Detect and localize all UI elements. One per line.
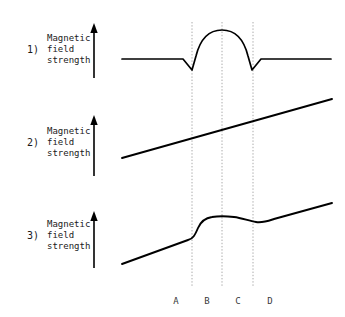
- x-tick-label-c: C: [232, 296, 244, 306]
- up-arrow-icon-3: [90, 211, 97, 268]
- curve-path-1: [122, 30, 331, 70]
- row-axis-label-3-line2: field: [47, 230, 74, 241]
- row-axis-label-1-line2: field: [47, 44, 74, 55]
- magnetic-field-strength-figure: 1) Magnetic field strength 2) Magnetic f…: [0, 0, 345, 317]
- row-index-2: 2): [27, 137, 39, 148]
- row-axis-label-1-line1: Magnetic: [47, 33, 90, 44]
- up-arrow-icon-2: [90, 115, 97, 176]
- guide-lines-group: [192, 22, 253, 286]
- up-arrow-icon-1: [90, 23, 97, 78]
- row-axis-label-2-line1: Magnetic: [47, 126, 90, 137]
- curve-panel-3: [122, 203, 332, 264]
- y-axis-arrows-group: [90, 23, 97, 268]
- row-axis-label-2-line3: strength: [47, 148, 90, 159]
- x-tick-label-d: D: [264, 296, 276, 306]
- curve-path-2: [122, 99, 332, 158]
- row-index-1: 1): [27, 44, 39, 55]
- row-axis-label-3-line1: Magnetic: [47, 219, 90, 230]
- x-tick-label-a: A: [170, 296, 182, 306]
- x-tick-label-b: B: [201, 296, 213, 306]
- row-axis-label-2-line2: field: [47, 137, 74, 148]
- row-axis-label-1-line3: strength: [47, 55, 90, 66]
- row-index-3: 3): [27, 230, 39, 241]
- curve-panel-2: [122, 99, 332, 158]
- curve-path-3: [122, 203, 332, 264]
- curve-panel-1: [122, 30, 331, 70]
- row-axis-label-3-line3: strength: [47, 241, 90, 252]
